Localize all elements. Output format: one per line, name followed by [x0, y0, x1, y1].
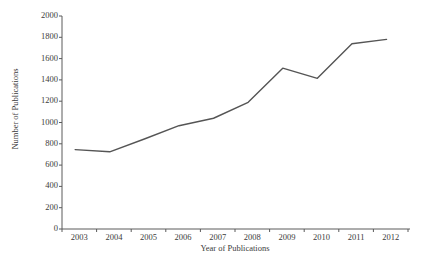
y-axis-tick-label: 200: [24, 203, 58, 212]
y-axis-tick-label: 1200: [24, 96, 58, 105]
y-axis-tick-label: 0: [24, 224, 58, 233]
y-axis-tick-label: 1600: [24, 54, 58, 63]
y-axis-tick-labels: 2000180016001400120010008006004002000: [20, 0, 58, 262]
data-series-line: [75, 39, 386, 151]
y-axis-tick-label: 600: [24, 160, 58, 169]
y-axis-tick-label: 1400: [24, 75, 58, 84]
y-axis-tick-label: 1000: [24, 118, 58, 127]
y-axis-title: Number of Publications: [10, 44, 20, 174]
x-axis-title: Year of Publications: [62, 243, 408, 253]
chart-figure: 2000180016001400120010008006004002000 20…: [0, 0, 428, 262]
y-axis-tick-label: 400: [24, 181, 58, 190]
line-chart-canvas: [0, 0, 428, 262]
x-axis-tick-label: 2012: [371, 232, 411, 242]
y-axis-tick-label: 1800: [24, 32, 58, 41]
y-axis-tick-label: 800: [24, 139, 58, 148]
y-axis-tick-label: 2000: [24, 11, 58, 20]
chart-axes: [59, 16, 410, 232]
